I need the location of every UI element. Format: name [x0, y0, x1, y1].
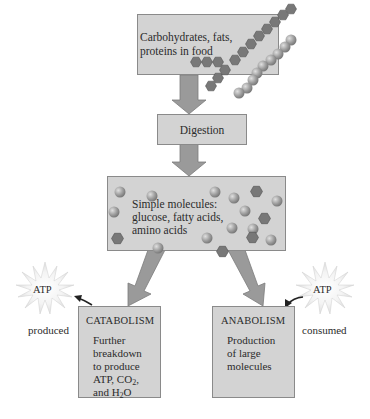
- simple-line1: Simple molecules:: [132, 198, 223, 211]
- atp-right-label: ATP: [313, 284, 332, 295]
- catabolism-title: CATABOLISM: [86, 315, 154, 326]
- catabolism-line2: breakdown: [93, 347, 142, 360]
- catabolism-line3: to produce: [93, 360, 142, 373]
- co2-suffix: ,: [136, 373, 139, 385]
- simple-line2: glucose, fatty acids,: [132, 211, 223, 224]
- anabolism-title: ANABOLISM: [221, 315, 285, 326]
- anabolism-line3: molecules: [227, 360, 275, 373]
- atp-consumed-caption: consumed: [302, 324, 347, 336]
- catabolism-line1: Further: [93, 334, 142, 347]
- catabolism-line5: and H2O: [93, 386, 142, 399]
- anabolism-line2: of large: [227, 347, 275, 360]
- h2o-suffix: O: [124, 386, 132, 398]
- catabolism-description: Further breakdown to produce ATP, CO2, a…: [93, 334, 142, 399]
- catabolism-line4: ATP, CO2,: [93, 373, 142, 386]
- anabolism-description: Production of large molecules: [227, 334, 275, 373]
- co2-prefix: ATP, CO: [93, 373, 132, 385]
- catabolism-box: CATABOLISM Further breakdown to produce …: [78, 306, 161, 398]
- simple-line3: amino acids: [132, 224, 223, 237]
- h2o-prefix: and H: [93, 386, 120, 398]
- simple-molecules-label: Simple molecules: glucose, fatty acids, …: [132, 198, 223, 237]
- anabolism-line1: Production: [227, 334, 275, 347]
- anabolism-box: ANABOLISM Production of large molecules: [212, 306, 295, 398]
- atp-produced-caption: produced: [28, 324, 69, 336]
- atp-left-label: ATP: [33, 284, 52, 295]
